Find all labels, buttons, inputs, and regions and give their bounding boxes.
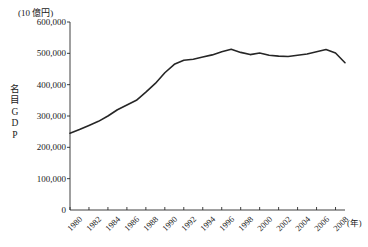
gdp-series-line <box>70 49 345 133</box>
gdp-line-chart-figure: (10 億円) 名 目 G D P 600,000500,000400,0003… <box>0 0 368 247</box>
plot-area <box>0 0 368 247</box>
